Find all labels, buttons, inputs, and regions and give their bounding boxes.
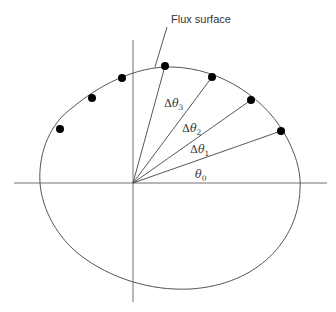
ray-3 xyxy=(133,66,165,183)
flux-surface-leader-line xyxy=(155,27,167,67)
ray-1 xyxy=(133,100,251,183)
surface-point-1 xyxy=(56,125,64,133)
flux-surface-diagram: Flux surface θ0 Δθ1 Δθ2 Δθ3 xyxy=(0,0,336,312)
surface-point-2 xyxy=(88,94,96,102)
flux-surface-label: Flux surface xyxy=(171,13,231,25)
surface-point-7 xyxy=(277,127,285,135)
angle-label-delta-theta3: Δθ3 xyxy=(164,97,184,112)
surface-point-3 xyxy=(118,74,126,82)
angle-label-delta-theta1: Δθ1 xyxy=(190,143,209,158)
surface-point-5 xyxy=(208,73,216,81)
surface-point-6 xyxy=(247,96,255,104)
angle-label-theta0: θ0 xyxy=(195,168,207,183)
angle-label-delta-theta2: Δθ2 xyxy=(182,122,202,137)
surface-point-4 xyxy=(161,62,169,70)
